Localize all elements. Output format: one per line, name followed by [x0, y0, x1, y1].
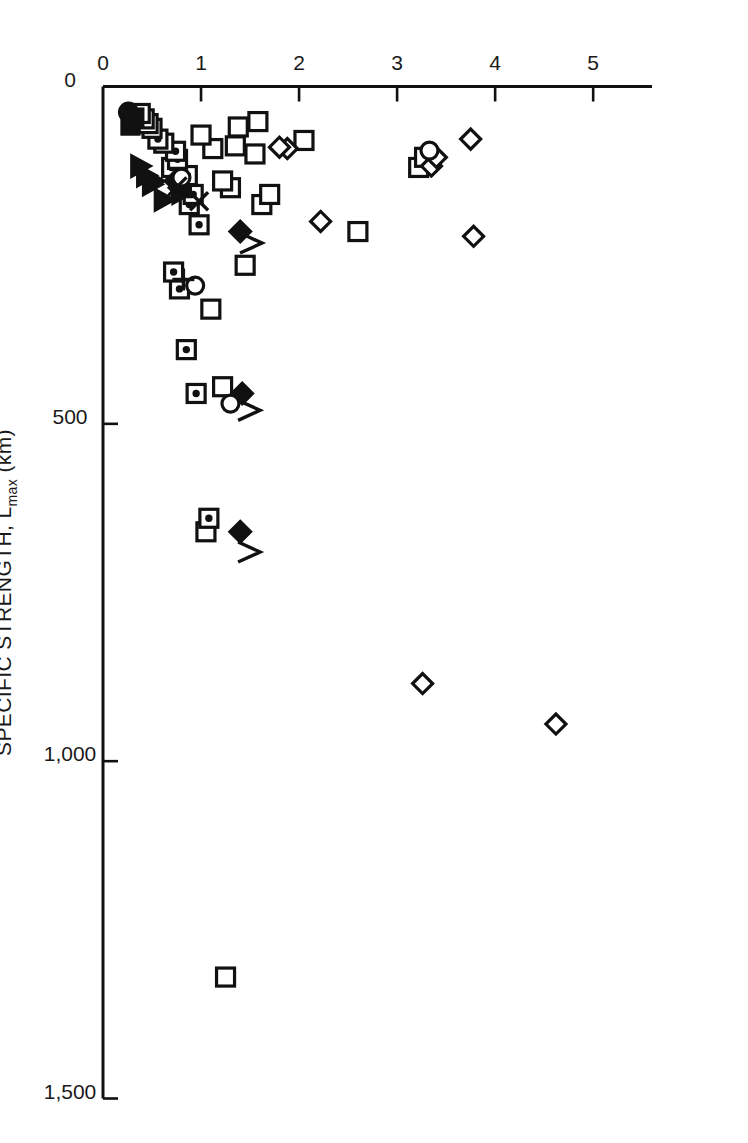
y-tick-label-4: 4 [489, 51, 501, 74]
series-filled-square [121, 108, 143, 134]
marker-open-square [295, 131, 313, 149]
marker-dotted-square [187, 384, 205, 402]
marker-open-square [236, 256, 254, 274]
marker-filled-diamond [229, 220, 251, 242]
x-tick-label-1,500: 1,500 [44, 1079, 97, 1102]
scatter-plot: 05001,0001,500 012345 SPECIFIC STRENGTH,… [0, 0, 748, 1143]
marker-open-diamond [464, 226, 484, 246]
marker-open-square [192, 126, 210, 144]
y-tick-label-2: 2 [293, 51, 305, 74]
x-tick-label-1,000: 1,000 [44, 742, 97, 765]
x-axis-ticks [103, 423, 118, 1098]
x-axis-title: SPECIFIC STRENGTH, Lmax (km) [0, 428, 20, 755]
x-axis-tick-labels: 05001,0001,500 [44, 67, 97, 1102]
marker-open-square [226, 136, 244, 154]
x-tick-label-0: 0 [64, 67, 76, 90]
y-tick-label-1: 1 [195, 51, 207, 74]
marker-open-triangle [238, 542, 260, 562]
marker-open-square [249, 112, 267, 130]
x-tick-label-500: 500 [52, 404, 87, 427]
marker-open-diamond [413, 673, 433, 693]
marker-open-square [217, 968, 235, 986]
marker-open-circle [421, 142, 438, 159]
marker-open-square [246, 144, 264, 162]
marker-open-triangle [240, 233, 262, 253]
marker-open-square [229, 117, 247, 135]
marker-dotted-square [177, 340, 195, 358]
y-axis-tick-labels: 012345 [97, 51, 599, 74]
marker-filled-diamond [229, 520, 251, 542]
figure-page: 05001,0001,500 012345 SPECIFIC STRENGTH,… [0, 0, 748, 1143]
svg-text:SPECIFIC STRENGTH, Lmax (km): SPECIFIC STRENGTH, Lmax (km) [0, 428, 20, 755]
marker-filled-square [125, 108, 143, 126]
marker-dotted-square [200, 509, 218, 527]
marker-open-triangle [238, 400, 260, 420]
marker-open-square [202, 300, 220, 318]
y-tick-label-5: 5 [587, 51, 599, 74]
marker-dotted-square [190, 215, 208, 233]
marker-open-circle [222, 395, 239, 412]
data-markers [119, 102, 566, 985]
marker-open-diamond [311, 211, 331, 231]
axes-group [103, 86, 652, 1098]
series-open-diamond [269, 129, 565, 734]
chart-stage: 05001,0001,500 012345 SPECIFIC STRENGTH,… [0, 0, 748, 1143]
marker-open-square [214, 377, 232, 395]
marker-open-square [349, 222, 367, 240]
y-axis-ticks [201, 86, 593, 101]
series-open-square [192, 112, 434, 985]
marker-open-diamond [546, 714, 566, 734]
y-tick-label-0: 0 [97, 51, 109, 74]
marker-open-square [214, 171, 232, 189]
y-tick-label-3: 3 [391, 51, 403, 74]
marker-open-square [261, 185, 279, 203]
marker-open-diamond [461, 129, 481, 149]
